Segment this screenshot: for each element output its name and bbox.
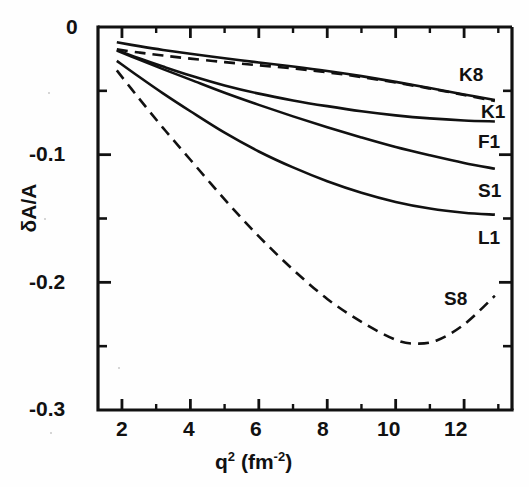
x-tick-label-8: 8 xyxy=(317,418,329,439)
y-axis-title: δA/A xyxy=(8,150,42,270)
curve-s8 xyxy=(117,70,495,343)
data-curves xyxy=(117,42,495,343)
curve-k8 xyxy=(117,49,495,101)
x-tick-label-12: 12 xyxy=(444,418,467,439)
x-axis-title-q: q xyxy=(215,450,228,473)
x-axis-title-unit-open: (fm xyxy=(235,450,274,473)
figure-panel: 0 -0.1 -0.2 -0.3 2 4 6 8 10 12 δA/A q2 (… xyxy=(0,0,529,487)
curve-label-l1: L1 xyxy=(478,228,500,247)
curve-label-f1: F1 xyxy=(478,132,500,151)
axis-ticks xyxy=(98,27,512,410)
x-axis-title-unit-close: ) xyxy=(285,450,292,473)
x-tick-label-10: 10 xyxy=(377,418,400,439)
y-axis-title-text: δA/A xyxy=(17,143,41,273)
curve-f1 xyxy=(117,50,495,121)
x-tick-label-2: 2 xyxy=(116,418,128,439)
axes-frame xyxy=(98,27,512,410)
x-axis-title-exponent: 2 xyxy=(228,449,235,464)
curve-l1 xyxy=(117,61,495,215)
x-axis-title-unit-exponent: -2 xyxy=(274,449,286,464)
x-tick-label-6: 6 xyxy=(250,418,262,439)
curve-label-k1: K1 xyxy=(481,102,505,121)
y-tick-label-0: 0 xyxy=(66,16,78,37)
y-tick-label-n02: -0.2 xyxy=(29,271,65,292)
curve-label-k8: K8 xyxy=(459,65,483,84)
plot-canvas xyxy=(0,0,529,487)
curve-label-s8: S8 xyxy=(444,289,467,308)
x-axis-title: q2 (fm-2) xyxy=(215,449,292,474)
x-tick-label-4: 4 xyxy=(183,418,195,439)
y-tick-label-n03: -0.3 xyxy=(29,398,65,419)
curve-label-s1: S1 xyxy=(478,181,501,200)
